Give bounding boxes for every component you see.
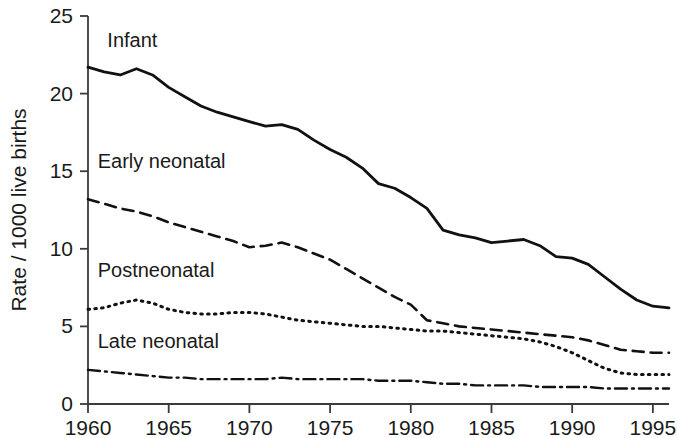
x-tick-label: 1995 [630,416,677,438]
series-label-infant: Infant [107,29,157,51]
x-tick-label: 1965 [145,416,192,438]
y-tick-label: 0 [61,392,73,415]
series-label-postneonatal: Postneonatal [98,259,215,281]
y-axis-label: Rate / 1000 live births [7,108,30,311]
axes [80,16,669,413]
series-label-early-neonatal: Early neonatal [98,150,226,172]
x-tick-label: 1970 [226,416,273,438]
x-tick-label: 1980 [387,416,434,438]
x-tick-label: 1985 [468,416,515,438]
y-axis-tick-labels: 0510152025 [50,4,73,415]
chart-container: 0510152025 19601965197019751980198519901… [0,0,677,438]
x-tick-label: 1975 [307,416,354,438]
y-tick-label: 15 [50,159,73,182]
x-axis-tick-labels: 19601965197019751980198519901995 [65,416,677,438]
x-tick-label: 1990 [549,416,596,438]
series-label-late-neonatal: Late neonatal [98,330,219,352]
x-tick-label: 1960 [65,416,112,438]
y-tick-label: 25 [50,4,73,27]
y-tick-label: 20 [50,82,73,105]
series-line-late-neonatal [88,370,669,389]
y-tick-label: 10 [50,237,73,260]
y-tick-label: 5 [61,314,73,337]
line-chart: 0510152025 19601965197019751980198519901… [0,0,677,438]
